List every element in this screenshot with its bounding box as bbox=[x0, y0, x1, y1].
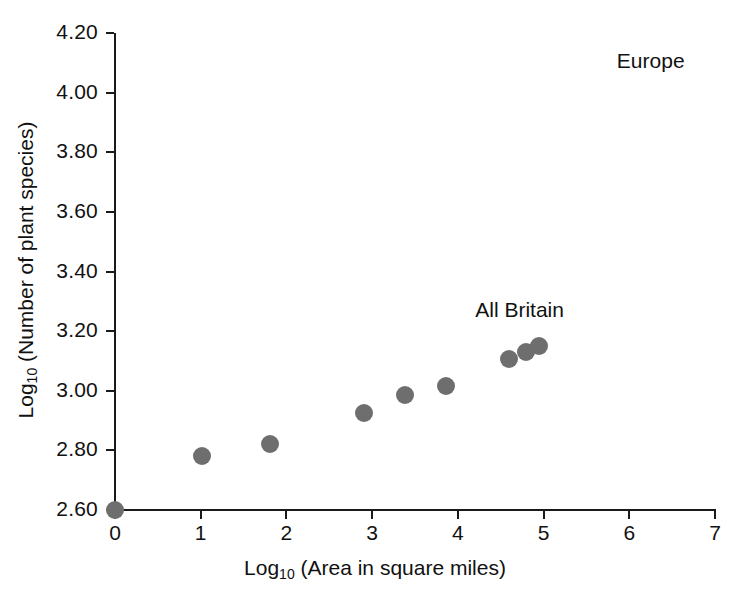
annotation-all-britain: All Britain bbox=[475, 298, 564, 322]
data-point bbox=[500, 350, 518, 368]
x-axis-title-suffix: (Area in square miles) bbox=[295, 556, 506, 579]
data-point bbox=[106, 501, 124, 519]
x-axis-title-subscript: 10 bbox=[279, 566, 295, 582]
x-tick-label-6: 6 bbox=[609, 521, 649, 545]
data-point bbox=[355, 404, 373, 422]
x-tick-label-0: 0 bbox=[95, 521, 135, 545]
data-point bbox=[396, 386, 414, 404]
x-tick-label-2: 2 bbox=[266, 521, 306, 545]
x-tick-label-7: 7 bbox=[695, 521, 735, 545]
x-axis-title-prefix: Log bbox=[244, 556, 279, 579]
x-tick-label-1: 1 bbox=[181, 521, 221, 545]
x-tick-1 bbox=[200, 511, 202, 519]
y-axis-title: Log10 (Number of plant species) bbox=[14, 30, 38, 510]
x-tick-5 bbox=[543, 511, 545, 519]
y-tick-3.00 bbox=[106, 390, 114, 392]
data-point bbox=[530, 337, 548, 355]
y-axis-title-suffix: (Number of plant species) bbox=[14, 122, 37, 368]
x-axis-line bbox=[114, 509, 716, 511]
y-tick-4.20 bbox=[106, 32, 114, 34]
y-axis-title-subscript: 10 bbox=[24, 368, 40, 384]
x-tick-label-5: 5 bbox=[524, 521, 564, 545]
x-tick-4 bbox=[457, 511, 459, 519]
scatter-plot-figure: 2.602.803.003.203.403.603.804.004.20 012… bbox=[0, 0, 750, 605]
y-tick-4.00 bbox=[106, 92, 114, 94]
data-point bbox=[261, 435, 279, 453]
y-tick-2.80 bbox=[106, 449, 114, 451]
y-axis-line bbox=[114, 33, 116, 511]
annotation-europe: Europe bbox=[617, 49, 685, 73]
y-axis-title-prefix: Log bbox=[14, 383, 37, 418]
data-point bbox=[437, 377, 455, 395]
y-tick-3.20 bbox=[106, 330, 114, 332]
y-tick-3.60 bbox=[106, 211, 114, 213]
x-tick-3 bbox=[371, 511, 373, 519]
y-tick-3.40 bbox=[106, 271, 114, 273]
x-tick-label-4: 4 bbox=[438, 521, 478, 545]
x-tick-2 bbox=[285, 511, 287, 519]
y-tick-3.80 bbox=[106, 151, 114, 153]
x-axis-title: Log10 (Area in square miles) bbox=[0, 556, 750, 580]
x-tick-7 bbox=[714, 511, 716, 519]
x-tick-6 bbox=[628, 511, 630, 519]
x-tick-label-3: 3 bbox=[352, 521, 392, 545]
data-point bbox=[193, 447, 211, 465]
